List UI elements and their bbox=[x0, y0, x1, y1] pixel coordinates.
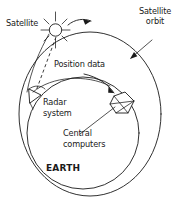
satellite-orbit-label-line1: Satellite bbox=[126, 6, 184, 16]
orbit-direction-arrow-icon bbox=[68, 19, 91, 25]
central-computers-label-line2: computers bbox=[63, 139, 105, 149]
satellite-label: Satellite bbox=[6, 18, 38, 28]
satellite-system-diagram: Satellite Satellite orbit Position data … bbox=[0, 0, 187, 197]
central-computers-icon bbox=[110, 92, 134, 113]
central-computers-label-line1: Central bbox=[63, 128, 92, 138]
radar-dish-icon bbox=[29, 89, 41, 109]
satellite-star-icon bbox=[41, 12, 70, 48]
earth-label: EARTH bbox=[46, 163, 80, 173]
radar-system-label-line1: Radar bbox=[43, 97, 66, 107]
diagram-canvas bbox=[0, 0, 187, 197]
satellite-orbit-label-line2: orbit bbox=[126, 16, 184, 26]
signal-arc-outer bbox=[33, 78, 110, 92]
radar-system-label-line2: system bbox=[43, 108, 72, 118]
position-data-label: Position data bbox=[54, 59, 105, 69]
downlink-dashed-line-icon bbox=[36, 37, 56, 91]
satellite-left-beam-line bbox=[27, 34, 49, 92]
satellite-orbit-path bbox=[19, 32, 161, 196]
